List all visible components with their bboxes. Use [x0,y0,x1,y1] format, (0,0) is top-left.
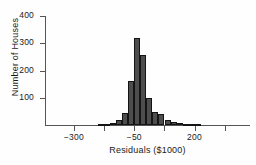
histogram-bars [0,0,256,165]
x-axis-title: Residuals ($1000) [45,145,250,155]
histogram-figure: 100200300400 −300−50200 Number of Houses… [0,0,256,165]
histogram-bar [195,124,201,126]
y-axis-title: Number of Houses [10,10,20,104]
